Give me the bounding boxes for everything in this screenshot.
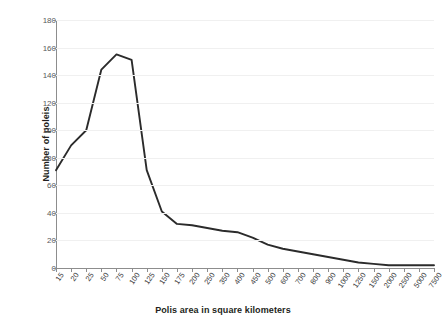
x-axis-tick-label: 450 xyxy=(248,271,263,286)
x-axis-title: Polis area in square kilometers xyxy=(0,305,446,315)
y-axis-tick-label: 140 xyxy=(24,71,56,80)
x-axis-tick-label-wrap: 20 xyxy=(70,272,82,284)
y-axis-tick-label: 80 xyxy=(24,153,56,162)
x-axis-tick-label-wrap: 1250 xyxy=(353,272,370,291)
x-axis-tick-label-wrap: 25 xyxy=(85,272,97,284)
x-axis-tick-label-wrap: 700 xyxy=(295,272,310,287)
y-axis-tick-label: 40 xyxy=(24,208,56,217)
chart-container: Number of poleis 02040608010012014016018… xyxy=(0,0,446,319)
x-axis-tick-label: 1250 xyxy=(351,271,368,290)
x-axis-tick-label-wrap: 75 xyxy=(116,272,128,284)
x-axis-tick-label: 800 xyxy=(308,271,323,286)
x-axis-tick-label-wrap: 100 xyxy=(128,272,143,287)
gridline xyxy=(56,158,434,159)
plot-area xyxy=(56,20,434,268)
x-axis-tick-label: 700 xyxy=(293,271,308,286)
x-axis-tick-label: 7500 xyxy=(427,271,444,290)
x-axis-tick-label-wrap: 250 xyxy=(204,272,219,287)
x-axis-tick-label-wrap: 175 xyxy=(174,272,189,287)
x-axis-tick-label: 2500 xyxy=(397,271,414,290)
y-axis-tick-label: 100 xyxy=(24,126,56,135)
x-axis-tick-label: 100 xyxy=(127,271,142,286)
y-axis-tick-label: 20 xyxy=(24,236,56,245)
x-axis-tick-label-wrap: 400 xyxy=(234,272,249,287)
x-axis-tick-label: 25 xyxy=(84,271,96,283)
x-axis-tick-label: 150 xyxy=(157,271,172,286)
x-axis-tick-label: 1000 xyxy=(336,271,353,290)
x-axis-tick-label: 350 xyxy=(217,271,232,286)
x-axis-tick-label: 200 xyxy=(187,271,202,286)
x-axis-tick-labels: 1520255075100125150175200250350400450500… xyxy=(56,272,435,300)
line-series xyxy=(56,20,434,268)
x-axis-tick-label: 250 xyxy=(202,271,217,286)
y-axis-tick-label: 160 xyxy=(24,43,56,52)
gridline xyxy=(56,240,434,241)
gridline xyxy=(56,75,434,76)
x-axis-tick-label: 1500 xyxy=(366,271,383,290)
x-axis-tick-label-wrap: 450 xyxy=(249,272,264,287)
y-axis-tick-label: 180 xyxy=(24,16,56,25)
x-axis-tick-label-wrap: 500 xyxy=(264,272,279,287)
y-axis-tick-label: 60 xyxy=(24,181,56,190)
y-axis-tick-label: 120 xyxy=(24,98,56,107)
x-axis-tick-label: 125 xyxy=(142,271,157,286)
x-axis-tick-label-wrap: 7500 xyxy=(428,272,445,291)
gridline xyxy=(56,130,434,131)
x-axis-tick-label-wrap: 50 xyxy=(101,272,113,284)
x-axis-tick-label: 5000 xyxy=(412,271,429,290)
x-axis-tick-label: 15 xyxy=(54,271,66,283)
x-axis-tick-label-wrap: 125 xyxy=(144,272,159,287)
x-axis-tick-label: 500 xyxy=(263,271,278,286)
gridline xyxy=(56,213,434,214)
x-axis-tick-label: 175 xyxy=(172,271,187,286)
gridline xyxy=(56,20,434,21)
gridline xyxy=(56,185,434,186)
x-axis-tick-label: 400 xyxy=(233,271,248,286)
x-axis-tick-label-wrap: 800 xyxy=(310,272,325,287)
gridline xyxy=(56,103,434,104)
y-axis: 020406080100120140160180 xyxy=(16,20,56,269)
x-axis-tick-label: 2000 xyxy=(381,271,398,290)
x-axis-tick-label: 75 xyxy=(114,271,126,283)
x-axis-tick-label: 600 xyxy=(278,271,293,286)
x-axis-tick-label: 20 xyxy=(69,271,81,283)
x-axis-tick-label-wrap: 15 xyxy=(55,272,67,284)
x-axis-tick-label: 50 xyxy=(99,271,111,283)
x-axis-tick-label-wrap: 150 xyxy=(159,272,174,287)
gridline xyxy=(56,48,434,49)
x-axis-tick-label-wrap: 200 xyxy=(189,272,204,287)
y-axis-tick-label: 0 xyxy=(24,264,56,273)
x-axis-tick-label-wrap: 600 xyxy=(280,272,295,287)
